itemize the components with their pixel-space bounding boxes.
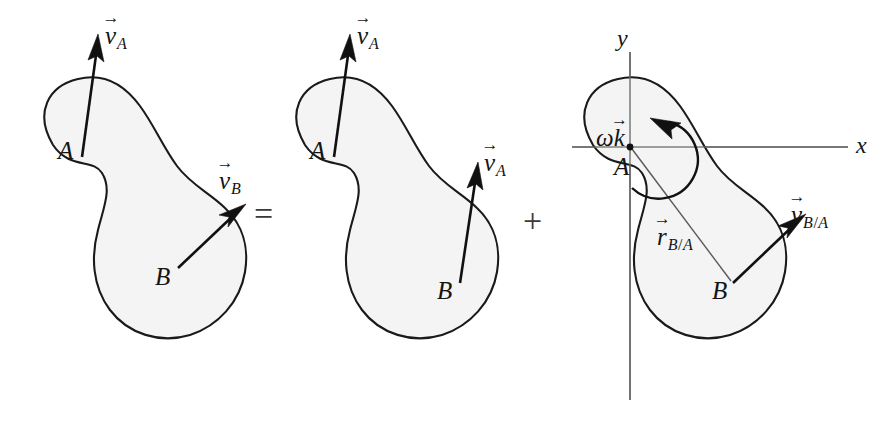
subscript-A: A: [116, 35, 127, 52]
label-vector-vA-panel2-at-A: →vA: [357, 21, 379, 52]
panel-total-motion: [44, 34, 246, 338]
label-vector-vA-panel1: →vA: [105, 21, 127, 52]
vector-accent-icon: →: [216, 154, 233, 171]
label-angular-velocity-omega-k: ω→k: [596, 123, 625, 150]
operator-equals: =: [254, 197, 273, 231]
point-A-marker: [627, 144, 634, 151]
figure-canvas: →vA A →vB B = →vA A →vA B + y x ω→k A →r…: [0, 0, 887, 423]
label-point-A-panel1: A: [58, 138, 73, 163]
vector-accent-icon: →: [788, 188, 805, 205]
subscript-A: A: [368, 35, 379, 52]
subscript-B: B: [230, 180, 241, 197]
label-point-B-panel2: B: [437, 278, 452, 303]
label-vector-rBA: →rB/A: [657, 222, 693, 253]
rigid-body-outline-1: [44, 77, 246, 338]
label-point-A-panel3: A: [614, 154, 629, 179]
label-axis-y: y: [617, 26, 628, 50]
subscript-A: A: [495, 162, 506, 179]
subscript-B-over-A: B/A: [667, 236, 693, 253]
label-vector-vA-panel2-at-B: →vA: [484, 148, 506, 179]
label-vector-vB-panel1: →vB: [219, 166, 241, 197]
rigid-body-outline-2: [296, 77, 498, 338]
label-vector-vBA: →vB/A: [791, 200, 828, 231]
vector-accent-icon: →: [354, 9, 371, 26]
label-point-A-panel2: A: [310, 138, 325, 163]
diagram-svg: [0, 0, 887, 423]
vector-accent-icon: →: [611, 111, 628, 128]
label-point-B-panel1: B: [155, 264, 170, 289]
label-point-B-panel3: B: [712, 278, 727, 303]
vector-accent-icon: →: [481, 136, 498, 153]
vector-accent-icon: →: [102, 9, 119, 26]
label-axis-x: x: [856, 133, 867, 157]
operator-plus: +: [523, 204, 542, 238]
subscript-B-over-A: B/A: [802, 214, 828, 231]
panel-translation: [296, 34, 498, 338]
vector-accent-icon: →: [654, 210, 671, 227]
